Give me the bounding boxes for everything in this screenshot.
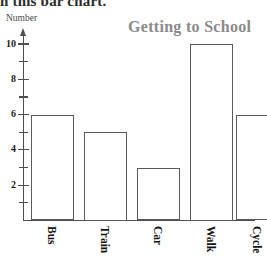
y-tick-major bbox=[18, 149, 29, 150]
category-label-bus: Bus bbox=[46, 226, 58, 245]
plot-area: 246810 BusTrainCarWalkCycle bbox=[0, 0, 267, 262]
y-tick-major bbox=[18, 114, 29, 115]
y-tick-major bbox=[18, 79, 29, 80]
y-tick-major bbox=[18, 185, 29, 186]
bar-walk bbox=[190, 44, 233, 221]
y-tick-minor bbox=[19, 132, 28, 133]
category-label-car: Car bbox=[152, 226, 164, 245]
y-tick-label: 2 bbox=[0, 179, 16, 190]
bar-bus bbox=[31, 115, 74, 221]
y-tick-label: 10 bbox=[0, 38, 16, 49]
y-tick-label: 4 bbox=[0, 143, 16, 154]
bar-train bbox=[84, 132, 127, 220]
y-tick-minor bbox=[19, 202, 28, 203]
bar-cycle bbox=[236, 115, 267, 221]
chart-page: n this bar chart. Getting to School Numb… bbox=[0, 0, 267, 262]
y-tick-major bbox=[18, 43, 29, 44]
y-tick-minor bbox=[19, 167, 28, 168]
bar-car bbox=[137, 168, 180, 221]
y-tick-label: 6 bbox=[0, 108, 16, 119]
category-label-train: Train bbox=[99, 226, 111, 253]
category-label-walk: Walk bbox=[205, 226, 217, 252]
y-tick-minor bbox=[19, 61, 28, 62]
y-tick-minor bbox=[19, 96, 28, 97]
y-tick-label: 8 bbox=[0, 73, 16, 84]
category-label-cycle: Cycle bbox=[251, 226, 263, 253]
